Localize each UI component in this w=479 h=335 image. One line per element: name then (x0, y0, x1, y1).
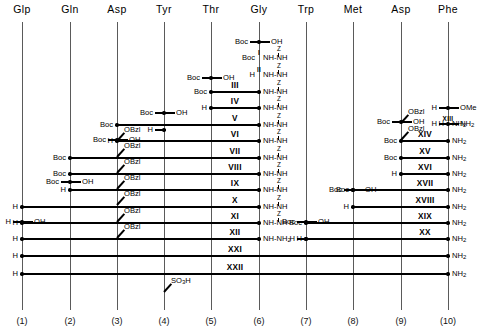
side-chain-label-OBzl-asp3-1: OBzl (124, 126, 140, 134)
reaction-line-XXI (22, 255, 448, 257)
terminus-left-XV: Boc (384, 154, 397, 162)
roman-numeral-II: II (257, 66, 261, 73)
roman-numeral-XV: XV (419, 147, 431, 156)
node-dot (20, 220, 23, 223)
terminus-right-IV: NH-NH (263, 104, 287, 112)
roman-numeral-X: X (232, 196, 238, 205)
node-dot (68, 188, 71, 191)
node-dot (446, 139, 449, 142)
reaction-line-XX (306, 238, 448, 240)
node-dot (446, 156, 449, 159)
terminus-right-XV: NH2 (452, 154, 466, 162)
terminus-left-XIV: Boc (384, 137, 397, 145)
node-dot (304, 237, 307, 240)
terminus-right-XVII: NH2 (452, 186, 466, 194)
column-header-thr-5: Thr (203, 3, 220, 15)
node-dot (257, 139, 260, 142)
roman-numeral-VIII: VIII (228, 163, 242, 172)
stub-left-h-nh2-phe10: H (432, 120, 437, 128)
column-header-asp-3: Asp (107, 3, 126, 15)
roman-numeral-XX: XX (419, 228, 431, 237)
terminus-right-III: NH-NH (263, 88, 287, 96)
stub-right-boc-oh-gln2: OH (82, 178, 93, 186)
z-bond (278, 87, 279, 91)
terminus-right-XXII: NH2 (452, 270, 466, 278)
node-dot (68, 180, 71, 183)
roman-numeral-IV: IV (231, 97, 239, 106)
side-chain-label-OBzl-asp3-4: OBzl (124, 174, 140, 182)
side-chain-label-OBzl-asp3-5: OBzl (124, 190, 140, 198)
terminus-right-IX: NH-NH (263, 186, 287, 194)
roman-numeral-XVI: XVI (418, 163, 432, 172)
column-number-5: (5) (206, 316, 217, 326)
column-number-8: (8) (348, 316, 359, 326)
node-dot (446, 188, 449, 191)
z-protecting-group: Z (277, 95, 281, 102)
terminus-right-V: NH-NH (263, 121, 287, 129)
roman-numeral-XVIII: XVIII (415, 196, 434, 205)
reaction-line-III (211, 91, 259, 93)
side-chain-label-OBzl-asp3-6: OBzl (124, 207, 140, 215)
node-dot (446, 172, 449, 175)
terminus-right-XIX: NH2 (452, 219, 466, 227)
stub-right-h-ome-phe10: OMe (460, 104, 476, 112)
node-dot (257, 106, 260, 109)
node-dot (351, 188, 354, 191)
terminus-left-I: Boc (242, 54, 255, 62)
terminus-right-II: NH-NH (263, 71, 287, 79)
stub-right-boc-oh-tyr4: OH (176, 109, 187, 117)
terminus-right-VIII: NH-NH (263, 170, 287, 178)
roman-numeral-XXII: XXII (227, 263, 244, 272)
terminus-right-VII: NH-NH (263, 154, 287, 162)
z-bond (278, 202, 279, 206)
z-protecting-group: Z (277, 145, 281, 152)
stub-left-h-trp7: H (290, 235, 295, 243)
terminus-left-XVI: H (392, 170, 397, 178)
terminus-left-XXII: H (13, 270, 18, 278)
stub-left-boc-oh-thr5: Boc (187, 74, 200, 82)
roman-numeral-V: V (232, 114, 238, 123)
node-dot (257, 40, 260, 43)
column-number-10: (10) (440, 316, 456, 326)
terminus-left-XII: H (13, 235, 18, 243)
node-dot (162, 128, 165, 131)
node-dot (115, 123, 118, 126)
column-line-asp-9 (401, 22, 402, 310)
column-header-glp-1: Glp (13, 3, 31, 15)
column-line-thr-5 (211, 22, 212, 310)
column-header-gln-2: Gln (61, 3, 79, 15)
node-dot (20, 237, 23, 240)
reaction-line-XII (22, 238, 259, 240)
terminus-left-X: H (13, 203, 18, 211)
terminus-left-XXI: H (13, 252, 18, 260)
z-bond (278, 218, 279, 222)
roman-numeral-XI: XI (231, 212, 239, 221)
roman-numeral-I: I (258, 49, 260, 56)
side-chain-label-OBzl-asp3-2: OBzl (124, 142, 140, 150)
column-header-gly-6: Gly (251, 3, 268, 15)
side-chain-label-OBzl-asp9-2: OBzl (408, 125, 424, 133)
terminus-left-IV: H (202, 104, 207, 112)
z-protecting-group: Z (277, 194, 281, 201)
reaction-line-IX (70, 189, 259, 191)
stub-left-boc-oh-gly6: Boc (235, 38, 248, 46)
stub-left-boc-oh-tyr4: Boc (140, 109, 153, 117)
stub-right-boc-oh-gly6: OH (271, 38, 282, 46)
stub-right-h-nh2-phe10: NH2 (460, 120, 474, 128)
node-dot (257, 172, 260, 175)
node-dot (257, 221, 260, 224)
column-header-asp-9: Asp (391, 3, 410, 15)
stub-right-boc-oh-trp7: OH (318, 218, 329, 226)
column-header-phe-10: Phe (438, 3, 458, 15)
terminus-left-II: H (250, 71, 255, 79)
column-number-1: (1) (17, 316, 28, 326)
node-dot (446, 254, 449, 257)
terminus-right-XVI: NH2 (452, 170, 466, 178)
reaction-line-VII (70, 157, 259, 159)
terminus-right-XXI: NH2 (452, 252, 466, 260)
node-dot (20, 254, 23, 257)
z-bond (278, 169, 279, 173)
z-protecting-group: Z (277, 177, 281, 184)
roman-numeral-XII: XII (230, 228, 241, 237)
terminus-right-I: NH-NH (263, 54, 287, 62)
